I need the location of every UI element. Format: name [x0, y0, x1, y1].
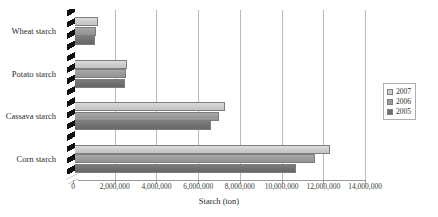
x-tick-labels: 02,000,0004,000,0006,000,0008,000,00010,… [0, 182, 438, 196]
x-axis-title: Starch (ton) [0, 196, 438, 206]
bar-2006-wheat-starch[interactable] [73, 27, 96, 36]
bar-2005-potato-starch[interactable] [73, 79, 125, 88]
legend: 200720062005 [383, 83, 416, 120]
category-label-cassava-starch: Cassava starch [6, 111, 56, 121]
y-axis-spine [67, 9, 75, 182]
category-label-corn-starch: Corn starch [17, 154, 56, 164]
legend-item-2006[interactable]: 2006 [387, 97, 411, 106]
bar-group [73, 145, 365, 175]
legend-item-2005[interactable]: 2005 [387, 107, 411, 116]
bar-2007-cassava-starch[interactable] [73, 102, 225, 111]
bar-2006-potato-starch[interactable] [73, 69, 126, 78]
category-label-wheat-starch: Wheat starch [11, 26, 56, 36]
bar-group [73, 17, 365, 47]
legend-swatch-icon [387, 89, 393, 95]
legend-item-2007[interactable]: 2007 [387, 87, 411, 96]
bar-2006-corn-starch[interactable] [73, 154, 315, 163]
bar-2005-wheat-starch[interactable] [73, 36, 95, 45]
bar-2005-cassava-starch[interactable] [73, 121, 211, 130]
legend-label: 2005 [396, 107, 411, 116]
bar-2007-wheat-starch[interactable] [73, 17, 98, 26]
bar-2005-corn-starch[interactable] [73, 164, 296, 173]
bar-2007-potato-starch[interactable] [73, 60, 127, 69]
category-labels: Wheat starchPotato starchCassava starchC… [0, 10, 64, 180]
bar-2007-corn-starch[interactable] [73, 145, 330, 154]
bar-group [73, 60, 365, 90]
bar-chart: Wheat starchPotato starchCassava starchC… [0, 0, 438, 217]
plot-area [73, 10, 365, 180]
x-tick-label: 6,000,000 [183, 182, 213, 191]
legend-swatch-icon [387, 99, 393, 105]
x-tick-label: 10,000,000 [265, 182, 299, 191]
legend-rows: 200720062005 [387, 87, 411, 116]
bar-group [73, 102, 365, 132]
bar-2006-cassava-starch[interactable] [73, 112, 219, 121]
legend-label: 2007 [396, 87, 411, 96]
x-tick-label: 2,000,000 [100, 182, 130, 191]
x-axis-line [73, 180, 365, 181]
x-tick-label: 4,000,000 [141, 182, 171, 191]
x-tick-label: 12,000,000 [306, 182, 340, 191]
x-tick-label: 14,000,000 [348, 182, 382, 191]
x-tick-label: 0 [71, 182, 75, 191]
category-label-potato-starch: Potato starch [12, 69, 56, 79]
x-tick-label: 8,000,000 [225, 182, 255, 191]
legend-label: 2006 [396, 97, 411, 106]
legend-swatch-icon [387, 109, 393, 115]
grid-line [365, 10, 366, 180]
